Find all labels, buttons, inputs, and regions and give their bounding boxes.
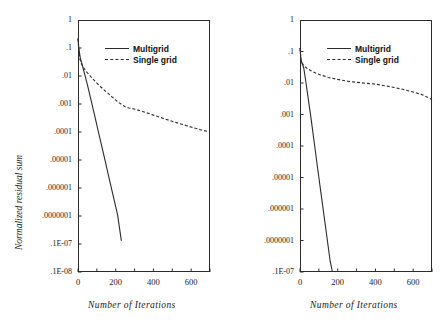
x-tick-label: 200: [101, 278, 131, 287]
y-tick-label: .01: [16, 72, 72, 80]
y-tick-label: 1: [16, 16, 72, 24]
y-tick-label: .0000001: [16, 212, 72, 220]
y-tick-label: .0000001: [238, 237, 294, 245]
y-tick-label: .000001: [238, 205, 294, 213]
chart-panel-right: Multigrid Single grid Number of Iteratio…: [223, 0, 446, 327]
legend-item-single-grid: Single grid: [327, 54, 399, 65]
y-tick-label: .1: [16, 44, 72, 52]
legend-right: Multigrid Single grid: [327, 43, 399, 65]
legend-item-multigrid: Multigrid: [105, 43, 177, 54]
x-tick-label: 0: [63, 278, 93, 287]
x-tick-label: 600: [398, 278, 428, 287]
y-tick-label: .1E-08: [16, 268, 72, 276]
y-tick-label: .00001: [238, 174, 294, 182]
y-tick-label: .01: [238, 79, 294, 87]
y-tick-label: .00001: [16, 156, 72, 164]
legend-item-multigrid: Multigrid: [327, 43, 399, 54]
legend-label-single-grid: Single grid: [355, 55, 399, 65]
y-tick-label: .0001: [16, 128, 72, 136]
legend-solid-line-icon: [327, 45, 351, 52]
legend-solid-line-icon: [105, 45, 129, 52]
legend-label-multigrid: Multigrid: [133, 44, 169, 54]
y-tick-label: .000001: [16, 184, 72, 192]
legend-dashed-line-icon: [105, 56, 129, 63]
legend-label-single-grid: Single grid: [133, 55, 177, 65]
legend-dashed-line-icon: [327, 56, 351, 63]
x-tick-label: 400: [138, 278, 168, 287]
y-tick-label: .001: [238, 111, 294, 119]
x-tick-label: 600: [176, 278, 206, 287]
y-tick-label: .001: [16, 100, 72, 108]
x-tick-label: 0: [285, 278, 315, 287]
legend-label-multigrid: Multigrid: [355, 44, 391, 54]
y-tick-label: .0001: [238, 142, 294, 150]
figure-container: Normalized residual sum Multigrid Single…: [0, 0, 446, 327]
chart-panel-left: Normalized residual sum Multigrid Single…: [0, 0, 223, 327]
y-tick-label: .1E-07: [238, 268, 294, 276]
x-axis-title: Number of Iterations: [88, 300, 176, 310]
legend-item-single-grid: Single grid: [105, 54, 177, 65]
x-axis-title: Number of Iterations: [310, 300, 398, 310]
series-line-multigrid: [300, 48, 332, 272]
y-tick-label: .1E-07: [16, 240, 72, 248]
x-tick-label: 400: [360, 278, 390, 287]
x-tick-label: 200: [323, 278, 353, 287]
y-tick-label: .1: [238, 48, 294, 56]
legend-left: Multigrid Single grid: [105, 43, 177, 65]
y-tick-label: 1: [238, 16, 294, 24]
